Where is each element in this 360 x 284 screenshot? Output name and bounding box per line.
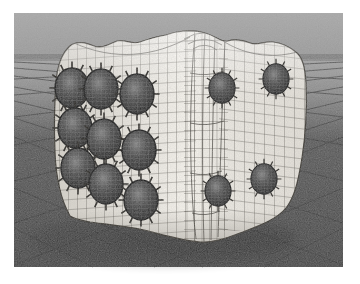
- film-grain-overlay: [14, 13, 343, 267]
- framed-render: [0, 0, 360, 284]
- scene-image: [0, 0, 360, 284]
- rendered-scene: [14, 13, 343, 267]
